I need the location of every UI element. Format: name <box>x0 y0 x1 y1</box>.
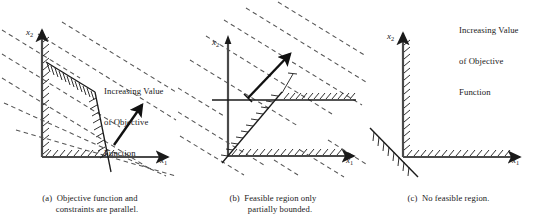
x-axis-hatching-b <box>232 149 342 155</box>
annot-a-line2: of Objective <box>104 117 164 127</box>
x-axis-hatching-c <box>407 150 510 156</box>
objective-contour-line <box>2 54 120 127</box>
constraint-parallel-a <box>46 62 95 92</box>
annot-a-line3: Function <box>104 148 164 158</box>
panel-a: x2 x1 Increasing Value of Objective Func… <box>0 0 180 219</box>
y-axis-arrowhead-b <box>225 35 232 44</box>
constraint-parallel-hatching-a <box>47 63 94 100</box>
diagonal-constraint-hatching-b <box>221 95 278 156</box>
caption-b-line2: partially bounded. <box>178 204 368 215</box>
leader-line-cap-b <box>288 73 297 74</box>
caption-a-line1: (a) Objective function and <box>0 193 180 204</box>
panel-b-drawing <box>178 0 368 180</box>
panel-c: x2 x1 (c) No feasible region. <box>362 0 535 219</box>
horizontal-constraint-hatching-b <box>284 93 355 99</box>
caption-c: (c) No feasible region. <box>362 193 535 204</box>
panel-c-drawing <box>362 0 535 180</box>
caption-a: (a) Objective function and constraints a… <box>0 193 180 215</box>
caption-b: (b) Feasible region only partially bound… <box>178 193 368 215</box>
annot-a-line1: Increasing Value <box>104 86 164 96</box>
x-axis-label-c: x1 <box>512 155 519 165</box>
y-axis-label-c: x2 <box>387 31 394 41</box>
increasing-value-annotation-a: Increasing Value of Objective Function <box>104 65 164 179</box>
y-axis-hatching-c <box>404 40 410 150</box>
caption-a-line2: constraints are parallel. <box>0 204 180 215</box>
panel-container: x2 x1 Increasing Value of Objective Func… <box>0 0 535 219</box>
caption-c-line1: (c) No feasible region. <box>362 193 535 204</box>
y-axis-label-b: x2 <box>212 37 219 47</box>
x-axis-label-b: x1 <box>346 155 353 165</box>
panel-b: x2 x1 Increasing Value of Objective Func… <box>178 0 368 219</box>
figure-root: x2 x1 Increasing Value of Objective Func… <box>0 0 535 219</box>
increasing-value-arrow-b <box>248 54 290 98</box>
objective-contour-lines <box>178 2 366 177</box>
diagonal-constraint-b <box>222 92 282 163</box>
caption-b-line1: (b) Feasible region only <box>178 193 368 204</box>
y-axis-hatching-a <box>43 37 49 154</box>
y-axis-label-a: x2 <box>26 27 33 37</box>
